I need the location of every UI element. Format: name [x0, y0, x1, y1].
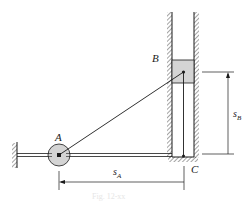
- mechanism-diagram: sB sA A B C Fig. 12-xx: [0, 0, 250, 203]
- label-sb: sB: [233, 108, 242, 122]
- figure-caption: Fig. 12-xx: [92, 192, 125, 201]
- label-c: C: [191, 163, 199, 175]
- label-a: A: [54, 131, 62, 143]
- left-wall: [12, 142, 17, 168]
- label-b: B: [152, 52, 159, 64]
- dimension-sb: [202, 72, 234, 154]
- vertical-guide: [167, 12, 199, 162]
- horizontal-rod: [17, 154, 172, 157]
- dimension-sa: [59, 166, 184, 190]
- cord-a-to-b: [59, 72, 184, 155]
- pin-b: [182, 70, 185, 73]
- pulley-c: [182, 155, 185, 158]
- label-sa: sA: [113, 166, 122, 180]
